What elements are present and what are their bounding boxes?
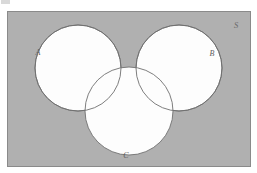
set-label-b: B	[210, 49, 215, 58]
set-label-c: C	[123, 151, 129, 160]
venn-diagram-canvas: A B C S	[0, 0, 257, 173]
set-circle-c	[85, 67, 173, 155]
venn-diagram-svg: A B C S	[0, 0, 257, 173]
set-label-a: A	[35, 48, 41, 57]
